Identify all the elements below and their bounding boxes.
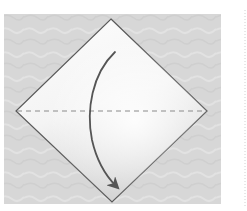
origami-diagram	[0, 0, 247, 211]
diagram-canvas	[0, 0, 247, 211]
